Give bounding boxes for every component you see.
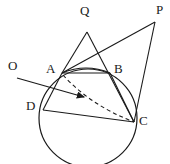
point-label-p: P bbox=[156, 3, 163, 16]
segment-a-d bbox=[43, 73, 62, 110]
segment-q-a bbox=[62, 32, 87, 73]
segment-p-c bbox=[134, 22, 155, 122]
arrow-from-o bbox=[17, 78, 84, 97]
geometry-figure: Q P O A B D C bbox=[0, 0, 170, 164]
point-label-b: B bbox=[114, 62, 123, 75]
point-label-o: O bbox=[8, 59, 17, 72]
main-circle bbox=[39, 69, 137, 164]
point-label-d: D bbox=[26, 99, 35, 112]
point-label-c: C bbox=[139, 114, 148, 127]
segment-q-c bbox=[87, 32, 134, 122]
diagram-canvas bbox=[0, 0, 170, 164]
point-label-a: A bbox=[46, 62, 55, 75]
dashed-a-c bbox=[63, 75, 134, 122]
point-label-q: Q bbox=[80, 4, 89, 17]
segment-p-a bbox=[62, 22, 155, 73]
